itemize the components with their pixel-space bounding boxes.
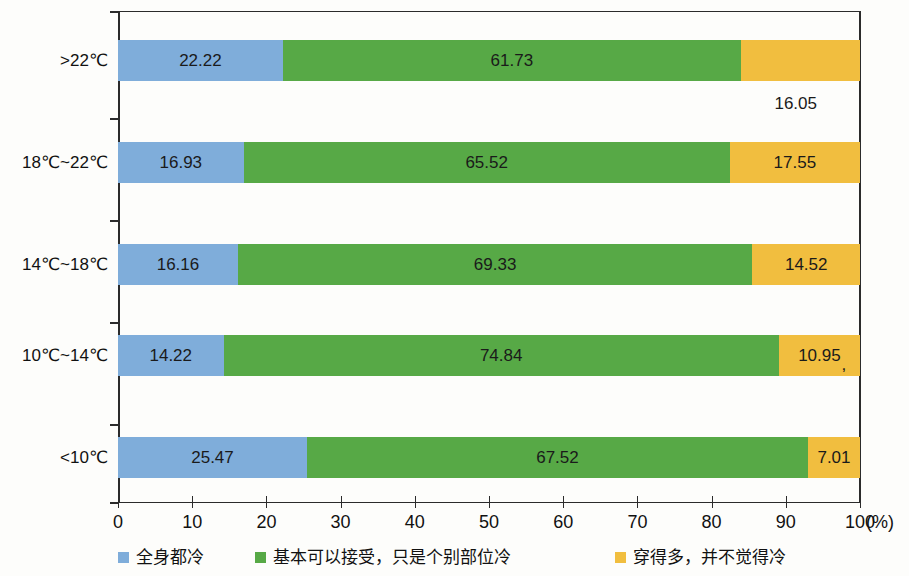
x-axis-unit-label: (%) (866, 512, 894, 533)
legend-swatch-icon (255, 552, 266, 563)
bar-segment: 7.01 (808, 437, 860, 478)
stacked-bar-chart: >22℃18℃~22℃14℃~18℃10℃~14℃<10℃ 22.2261.73… (0, 0, 909, 576)
bar-segment: 69.33 (238, 244, 752, 285)
bar-value-label: 74.84 (480, 346, 523, 366)
bar-row: 16.1669.3314.52 (118, 244, 860, 285)
x-axis-tick-label-10: 10 (170, 512, 214, 533)
bar-segment: 17.55 (730, 142, 860, 183)
legend-item-0[interactable]: 全身都冷 (118, 549, 204, 566)
bar-value-label: 7.01 (817, 448, 850, 468)
bar-row: 16.9365.5217.55 (118, 142, 860, 183)
legend-item-1[interactable]: 基本可以接受，只是个别部位冷 (255, 549, 511, 566)
bar-value-label: 14.22 (149, 346, 192, 366)
bar-value-label: 61.73 (491, 51, 534, 71)
stray-comma-artifact: , (841, 355, 846, 375)
x-axis-tick (266, 496, 267, 508)
bar-segment: 67.52 (307, 437, 808, 478)
y-axis-tick (110, 424, 119, 426)
bar-segment: 22.22 (118, 40, 283, 81)
legend-label: 全身都冷 (136, 549, 204, 566)
bar-row: 14.2274.8410.95, (118, 335, 860, 376)
bar-segment: 25.47 (118, 437, 307, 478)
category-label-4: <10℃ (0, 447, 108, 468)
bar-value-label: 10.95 (798, 346, 841, 366)
x-axis-tick-label-60: 60 (541, 512, 585, 533)
bar-segment: 16.16 (118, 244, 238, 285)
category-label-0: >22℃ (0, 50, 108, 71)
legend-item-2[interactable]: 穿得多，并不觉得冷 (615, 549, 786, 566)
x-axis-tick-label-90: 90 (764, 512, 808, 533)
x-axis-tick-label-30: 30 (319, 512, 363, 533)
category-label-2: 14℃~18℃ (0, 254, 108, 275)
x-axis-tick (860, 496, 861, 508)
bar-row: 22.2261.7316.05 (118, 40, 860, 81)
x-axis-tick (489, 496, 490, 508)
bar-value-label-outside: 16.05 (774, 94, 817, 114)
legend-label: 基本可以接受，只是个别部位冷 (273, 549, 511, 566)
x-axis-tick (563, 496, 564, 508)
category-label-1: 18℃~22℃ (0, 152, 108, 173)
y-axis-tick (110, 322, 119, 324)
bar-value-label: 22.22 (179, 51, 222, 71)
bar-segment (741, 40, 860, 81)
bar-value-label: 16.16 (157, 255, 200, 275)
x-axis-tick (786, 496, 787, 508)
x-axis-tick-label-20: 20 (244, 512, 288, 533)
y-axis-tick (110, 11, 119, 13)
x-axis-tick-label-50: 50 (467, 512, 511, 533)
bar-value-label: 67.52 (536, 448, 579, 468)
x-axis-tick (341, 496, 342, 508)
legend-swatch-icon (118, 552, 129, 563)
bar-value-label: 65.52 (465, 153, 508, 173)
bar-segment: 14.52 (752, 244, 860, 285)
y-axis-tick (110, 118, 119, 120)
category-label-3: 10℃~14℃ (0, 345, 108, 366)
x-axis-tick (415, 496, 416, 508)
bar-row: 25.4767.527.01 (118, 437, 860, 478)
legend-swatch-icon (615, 552, 626, 563)
bar-value-label: 69.33 (474, 255, 517, 275)
x-axis-tick-label-80: 80 (690, 512, 734, 533)
bar-segment: 61.73 (283, 40, 741, 81)
bar-segment: 10.95 (779, 335, 860, 376)
x-axis-tick-label-70: 70 (615, 512, 659, 533)
bar-segment: 65.52 (244, 142, 730, 183)
bar-value-label: 17.55 (774, 153, 817, 173)
x-axis-tick (712, 496, 713, 508)
plot-top-border (118, 11, 860, 12)
x-axis-tick-label-40: 40 (393, 512, 437, 533)
x-axis-tick (192, 496, 193, 508)
bar-segment: 74.84 (224, 335, 779, 376)
bar-value-label: 16.93 (160, 153, 203, 173)
bar-value-label: 14.52 (785, 255, 828, 275)
legend-label: 穿得多，并不觉得冷 (633, 549, 786, 566)
x-axis-tick-label-0: 0 (96, 512, 140, 533)
bar-value-label: 25.47 (191, 448, 234, 468)
bar-segment: 14.22 (118, 335, 224, 376)
x-axis-tick (637, 496, 638, 508)
y-axis-tick (110, 220, 119, 222)
x-axis-tick (118, 496, 119, 508)
chart-legend: 全身都冷基本可以接受，只是个别部位冷穿得多，并不觉得冷 (0, 549, 909, 576)
bar-segment: 16.93 (118, 142, 244, 183)
